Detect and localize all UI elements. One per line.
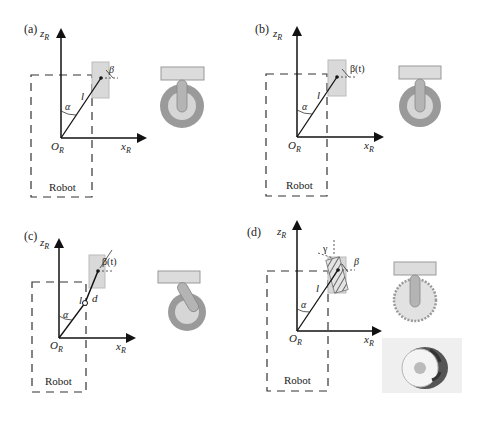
svg-text:Robot: Robot bbox=[284, 374, 311, 386]
panel-d: (d) zR l α β γ OR xR Robot bbox=[247, 222, 462, 393]
svg-text:α: α bbox=[63, 309, 69, 320]
svg-text:β(t): β(t) bbox=[350, 63, 365, 75]
z-axis-label: zR bbox=[39, 27, 49, 42]
svg-text:β: β bbox=[108, 64, 114, 75]
svg-text:xR: xR bbox=[115, 340, 126, 355]
svg-text:zR: zR bbox=[276, 225, 286, 240]
svg-text:xR: xR bbox=[363, 333, 374, 348]
svg-text:d: d bbox=[92, 292, 98, 304]
fixed-wheel-icon bbox=[160, 67, 204, 128]
svg-text:xR: xR bbox=[120, 140, 131, 155]
svg-text:α: α bbox=[301, 299, 307, 310]
panel-a-label: (a) bbox=[24, 22, 37, 36]
svg-text:α: α bbox=[65, 101, 71, 112]
svg-text:β(t): β(t) bbox=[102, 256, 117, 268]
svg-text:l: l bbox=[316, 282, 319, 294]
wheel-kinematics-figure: (a) zR l α β OR xR Robot (b) zR bbox=[0, 0, 481, 422]
panel-c: (c) zR l d α β(t) OR xR Robot bbox=[24, 229, 206, 392]
svg-text:(d): (d) bbox=[247, 225, 261, 239]
svg-text:zR: zR bbox=[272, 27, 282, 42]
svg-text:(c): (c) bbox=[24, 229, 37, 243]
panel-a: (a) zR l α β OR xR Robot bbox=[24, 22, 204, 197]
svg-text:α: α bbox=[302, 101, 308, 112]
svg-text:γ: γ bbox=[322, 243, 328, 254]
svg-text:OR: OR bbox=[50, 339, 63, 354]
svg-text:l: l bbox=[81, 90, 84, 102]
svg-text:β: β bbox=[353, 256, 359, 267]
panel-b: (b) zR l α β(t) OR xR Robot bbox=[255, 22, 441, 196]
svg-text:l: l bbox=[79, 294, 82, 306]
svg-text:zR: zR bbox=[39, 236, 49, 251]
svg-text:OR: OR bbox=[289, 332, 302, 347]
wheel-box bbox=[92, 62, 109, 98]
svg-text:l: l bbox=[317, 89, 320, 101]
svg-text:OR: OR bbox=[288, 139, 301, 154]
svg-text:Robot: Robot bbox=[45, 375, 72, 387]
svg-text:xR: xR bbox=[363, 139, 374, 154]
svg-text:Robot: Robot bbox=[286, 179, 313, 191]
swedish-wheel-icon bbox=[394, 262, 436, 321]
robot-label: Robot bbox=[49, 181, 76, 193]
castor-wheel-icon bbox=[158, 271, 206, 331]
steered-wheel-icon bbox=[399, 66, 441, 127]
svg-text:OR: OR bbox=[51, 140, 64, 155]
mecanum-wheel-photo bbox=[382, 338, 462, 393]
svg-text:(b): (b) bbox=[255, 22, 269, 36]
